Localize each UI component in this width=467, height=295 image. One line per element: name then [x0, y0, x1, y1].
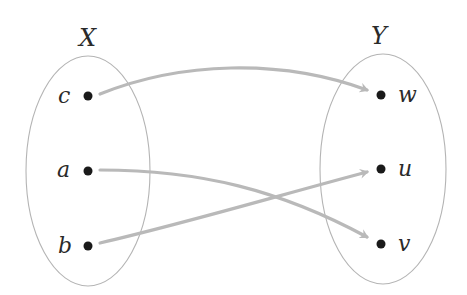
arrow-b-to-u — [100, 172, 367, 243]
element-w-label: w — [398, 82, 417, 107]
element-b: b — [58, 233, 93, 258]
element-b-dot — [84, 242, 93, 251]
set-x-label: X — [77, 24, 97, 52]
arrow-a-to-v — [100, 170, 367, 237]
element-a-dot — [84, 167, 93, 176]
element-v-dot — [377, 240, 386, 249]
element-c-label: c — [58, 83, 70, 108]
element-u: u — [377, 156, 413, 181]
element-w-dot — [377, 91, 386, 100]
element-c-dot — [84, 92, 93, 101]
element-v: v — [377, 231, 412, 256]
set-y: Y w u v — [320, 22, 446, 284]
element-u-dot — [377, 165, 386, 174]
element-b-label: b — [58, 233, 72, 258]
element-c: c — [58, 83, 93, 108]
set-x: X c a b — [26, 24, 150, 286]
element-v-label: v — [398, 231, 411, 256]
element-u-label: u — [398, 156, 412, 181]
element-a-label: a — [57, 157, 70, 182]
set-y-label: Y — [371, 22, 389, 50]
arrow-c-to-w — [100, 68, 367, 94]
element-w: w — [377, 82, 418, 107]
mapping-diagram: X c a b Y w u v — [0, 0, 467, 295]
element-a: a — [57, 157, 93, 182]
